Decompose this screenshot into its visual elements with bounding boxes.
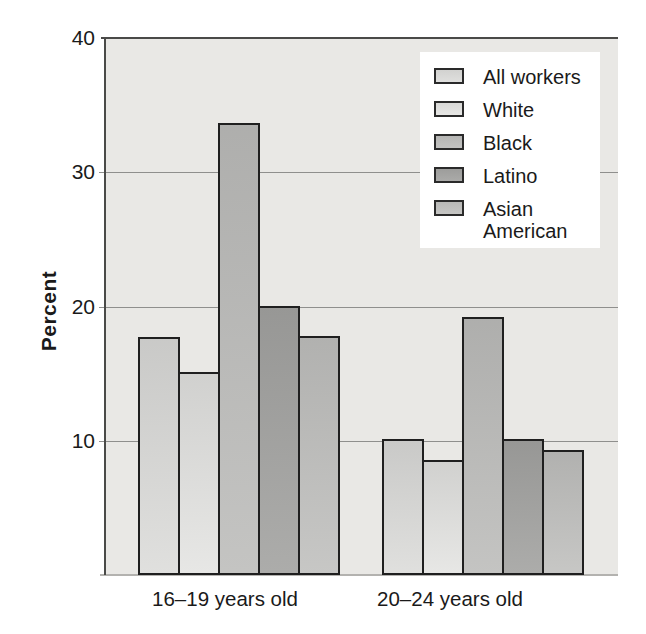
bar-black-group1 [218,123,260,575]
legend-row-all-workers: All workers [434,66,600,88]
y-tick-label-40: 40 [38,26,95,50]
legend-label-latino: Latino [483,165,538,187]
bar-all-workers-group2 [382,439,424,575]
bar-asian-american-group1 [298,336,340,575]
legend-label-white: White [483,99,534,121]
legend-label-all-workers: All workers [483,66,581,88]
legend-row-asian-american: Asian American [434,198,600,242]
top-axis-line [101,37,618,39]
legend-swatch-asian-american [434,200,464,216]
legend: All workersWhiteBlackLatinoAsian America… [420,52,600,248]
legend-label-asian-american: Asian American [483,198,583,242]
legend-row-white: White [434,99,600,121]
bar-latino-group2 [502,439,544,575]
legend-row-latino: Latino [434,165,600,187]
bar-asian-american-group2 [542,450,584,575]
bar-all-workers-group1 [138,337,180,575]
legend-swatch-all-workers [434,68,464,84]
bar-chart-figure: Percent 10203040 All workersWhiteBlackLa… [0,0,646,634]
legend-label-black: Black [483,132,532,154]
bar-latino-group1 [258,306,300,575]
y-tick-label-10: 10 [38,429,95,453]
legend-swatch-white [434,101,464,117]
legend-swatch-latino [434,167,464,183]
category-label-20-24: 20–24 years old [300,587,600,611]
legend-row-black: Black [434,132,600,154]
bar-white-group1 [178,372,220,575]
bar-white-group2 [422,460,464,575]
y-tick-label-20: 20 [38,295,95,319]
legend-swatch-black [434,134,464,150]
y-tick-label-30: 30 [38,160,95,184]
y-axis-line [104,37,106,575]
gridline-20 [99,307,618,308]
bar-black-group2 [462,317,504,575]
